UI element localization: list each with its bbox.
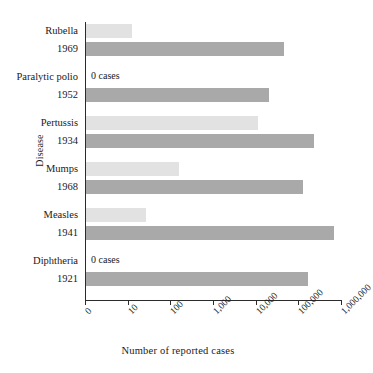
bar-row-current: Measles	[85, 208, 341, 222]
category-label-year: 1921	[57, 272, 78, 286]
x-tick-label: 100,000	[296, 287, 325, 316]
bar-peak	[86, 272, 308, 286]
bar-row-peak: 1941	[85, 226, 341, 240]
bar-row-current: Paralytic polio0 cases	[85, 70, 341, 84]
bar-row-current: Pertussis	[85, 116, 341, 130]
bar-group: Diphtheria0 cases1921	[85, 254, 341, 286]
x-tick-label: 1,000,000	[339, 282, 373, 316]
category-label-disease: Pertussis	[41, 116, 78, 130]
category-label-disease: Mumps	[46, 162, 78, 176]
bar-group: Mumps1968	[85, 162, 341, 194]
category-label-year: 1969	[57, 42, 78, 56]
bar-group: Pertussis1934	[85, 116, 341, 148]
category-label-year: 1952	[57, 88, 78, 102]
bar-peak	[86, 88, 269, 102]
bar-peak	[86, 42, 284, 56]
x-tick	[128, 300, 129, 305]
bar-row-current: Mumps	[85, 162, 341, 176]
x-tick-label: 1,000	[211, 294, 233, 316]
category-label-year: 1968	[57, 180, 78, 194]
bar-row-peak: 1952	[85, 88, 341, 102]
bar-peak	[86, 226, 334, 240]
bar-peak	[86, 180, 303, 194]
x-axis-title: Number of reported cases	[0, 345, 356, 356]
bar-current	[86, 162, 179, 176]
plot-area: Rubella1969Paralytic polio0 cases1952Per…	[85, 22, 341, 300]
zero-cases-note: 0 cases	[91, 253, 120, 267]
bar-peak	[86, 134, 314, 148]
x-tick-label: 10,000	[254, 291, 280, 317]
bar-current	[86, 208, 146, 222]
bar-row-current: Diphtheria0 cases	[85, 254, 341, 268]
bar-group: Paralytic polio0 cases1952	[85, 70, 341, 102]
bar-row-current: Rubella	[85, 24, 341, 38]
category-label-disease: Measles	[44, 208, 78, 222]
category-label-disease: Rubella	[45, 24, 78, 38]
category-label-year: 1941	[57, 226, 78, 240]
bar-row-peak: 1968	[85, 180, 341, 194]
x-tick-label: 0	[83, 306, 93, 316]
bar-row-peak: 1921	[85, 272, 341, 286]
category-label-disease: Paralytic polio	[16, 70, 78, 84]
bar-row-peak: 1934	[85, 134, 341, 148]
zero-cases-note: 0 cases	[91, 69, 120, 83]
category-label-year: 1934	[57, 134, 78, 148]
bar-current	[86, 116, 258, 130]
bar-row-peak: 1969	[85, 42, 341, 56]
bar-group: Rubella1969	[85, 24, 341, 56]
bar-current	[86, 24, 132, 38]
x-tick	[256, 300, 257, 305]
bar-group: Measles1941	[85, 208, 341, 240]
category-label-disease: Diphtheria	[33, 254, 78, 268]
